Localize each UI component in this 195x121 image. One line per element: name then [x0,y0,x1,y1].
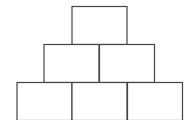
block-row2-1 [44,45,99,83]
block-row3-2 [72,83,127,121]
block-row2-2 [100,45,155,83]
block-row3-1 [17,83,72,121]
pyramid-diagram [0,0,195,120]
block-row3-3 [128,83,183,121]
block-row1-1 [72,7,127,45]
